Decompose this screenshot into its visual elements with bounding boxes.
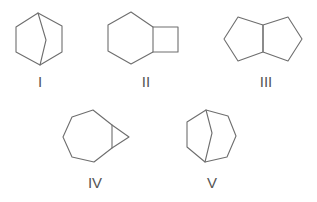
- ring-iv-heptagon: [63, 110, 112, 162]
- label-iv: IV: [88, 174, 102, 191]
- bridge-v: [205, 110, 212, 162]
- label-ii: II: [142, 73, 150, 90]
- structure-iv: IV: [63, 110, 129, 191]
- structure-iii: III: [224, 17, 302, 90]
- ring-iv-cyclopropane: [112, 125, 129, 148]
- ring-iii-right: [263, 17, 302, 61]
- ring-ii-cyclobutane: [153, 27, 178, 52]
- label-i: I: [38, 73, 42, 90]
- ring-iii-left: [224, 17, 263, 61]
- label-v: V: [207, 174, 217, 191]
- bridge-i: [38, 13, 46, 65]
- structure-ii: II: [108, 12, 178, 90]
- ring-ii-hexagon: [108, 12, 153, 64]
- structures-canvas: I II III IV V: [0, 0, 317, 202]
- structure-v: V: [187, 110, 236, 191]
- label-iii: III: [260, 73, 273, 90]
- ring-i-hexagon: [16, 13, 62, 65]
- structure-i: I: [16, 13, 62, 90]
